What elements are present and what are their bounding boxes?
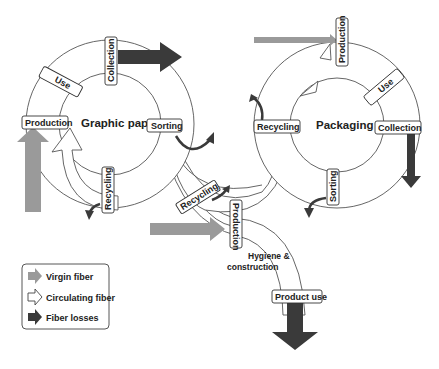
pk-production-label: Production [336,16,348,67]
svg-text:Product use: Product use [275,292,327,302]
pk-recycling-label: Recycling [254,120,300,133]
gp-production-label: Production [22,116,73,129]
svg-text:Circulating fiber: Circulating fiber [46,293,116,303]
svg-text:Virgin fiber: Virgin fiber [46,272,94,282]
svg-text:Sorting: Sorting [151,121,183,131]
packaging-title: Packaging [316,119,374,131]
svg-text:Collection: Collection [378,123,422,133]
pk-sorting-label: Sorting [327,169,339,205]
svg-text:Production: Production [337,16,347,64]
gp-collection-label: Collection [105,37,117,85]
hc-title-line2: construction [227,262,278,272]
gp-recycling-label: Recycling [102,167,114,213]
svg-text:Production: Production [231,203,241,251]
svg-text:Recycling: Recycling [257,122,300,132]
svg-text:Production: Production [25,118,73,128]
hc-product-use-label: Product use [272,290,327,303]
svg-text:Collection: Collection [106,38,116,82]
svg-text:Sorting: Sorting [328,171,338,203]
pk-collection-label: Collection [375,121,422,134]
svg-text:Recycling: Recycling [103,167,113,210]
hc-virgin-fiber-arrow [150,217,225,241]
fiber-flow-diagram: Graphic papers Production Use Collection… [0,0,439,369]
hc-title-line1: Hygiene & [248,251,290,261]
hc-product-use-loss-arrow [272,302,318,350]
gp-sorting-label: Sorting [147,119,183,132]
legend: Virgin fiber Circulating fiber Fiber los… [22,264,116,329]
hc-production-label: Production [230,200,242,251]
svg-text:Fiber losses: Fiber losses [46,313,99,323]
